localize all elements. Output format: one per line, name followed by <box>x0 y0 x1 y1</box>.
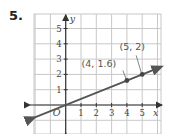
y-tick-label: 3 <box>56 54 61 64</box>
point-leader-line <box>136 55 141 72</box>
coordinate-plane: 1234512345Oxy (4, 1.6)(5, 2) <box>0 0 169 134</box>
y-tick-label: 2 <box>56 69 61 79</box>
x-tick-label: 1 <box>78 108 83 118</box>
point-label: (5, 2) <box>119 41 145 52</box>
y-tick-label: 5 <box>56 24 61 34</box>
x-tick-label: 2 <box>94 108 99 118</box>
point-label: (4, 1.6) <box>82 58 117 69</box>
x-tick-label: 5 <box>139 108 144 118</box>
y-axis-label: y <box>69 13 76 24</box>
x-axis-label: x <box>153 107 159 118</box>
data-point <box>140 72 145 77</box>
y-tick-label: 1 <box>56 85 61 95</box>
y-tick-label: 4 <box>56 39 61 49</box>
x-tick-label: 3 <box>109 108 114 118</box>
x-tick-label: 4 <box>124 108 129 118</box>
data-point <box>125 78 130 83</box>
